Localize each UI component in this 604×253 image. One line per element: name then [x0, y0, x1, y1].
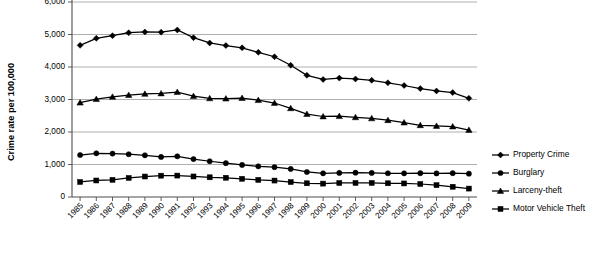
data-point-marker — [207, 159, 212, 164]
legend-label: Motor Vehicle Theft — [513, 203, 586, 213]
series-line — [80, 153, 469, 173]
data-point-marker — [78, 179, 83, 184]
legend-label: Larceny-theft — [513, 185, 563, 195]
data-point-marker — [94, 151, 99, 156]
x-axis-tick-label: 1994 — [212, 201, 232, 221]
x-axis-tick-label: 2005 — [390, 201, 410, 221]
data-point-marker — [142, 174, 147, 179]
data-point-marker — [272, 54, 278, 60]
legend-label: Burglary — [513, 167, 545, 177]
x-axis-tick-label: 1993 — [195, 201, 215, 221]
data-point-marker — [288, 166, 293, 171]
data-point-marker — [498, 207, 503, 212]
y-axis-tick-label: 5,000 — [45, 30, 66, 39]
series-motor-vehicle-theft — [78, 173, 472, 191]
data-point-marker — [417, 86, 423, 92]
x-axis-tick-label: 1992 — [179, 201, 199, 221]
data-point-marker — [321, 181, 326, 186]
y-axis-tick-label: 4,000 — [45, 62, 66, 71]
data-point-marker — [272, 178, 277, 183]
data-point-marker — [256, 164, 261, 169]
x-axis-tick-label: 2000 — [309, 201, 329, 221]
x-axis-tick-label: 2003 — [357, 201, 377, 221]
data-point-marker — [418, 171, 423, 176]
series-line — [80, 30, 469, 98]
data-point-marker — [321, 171, 326, 176]
data-point-marker — [126, 152, 131, 157]
x-axis-tick-label: 1998 — [276, 201, 296, 221]
x-axis-tick-label: 1988 — [114, 201, 134, 221]
data-point-marker — [385, 80, 391, 86]
series-property-crime — [77, 27, 472, 101]
chart-legend: Property CrimeBurglaryLarceny-theftMotor… — [492, 149, 586, 213]
data-point-marker — [240, 162, 245, 167]
x-axis-tick-label: 2004 — [374, 201, 394, 221]
x-axis-tick-label: 2007 — [422, 201, 442, 221]
legend-item-motor-vehicle-theft[interactable]: Motor Vehicle Theft — [492, 203, 586, 213]
data-point-marker — [466, 171, 471, 176]
x-axis-tick-label: 1996 — [244, 201, 264, 221]
data-point-marker — [159, 173, 164, 178]
data-point-marker — [434, 171, 439, 176]
data-point-marker — [110, 151, 115, 156]
data-point-marker — [77, 42, 83, 48]
data-point-marker — [255, 49, 261, 55]
data-point-marker — [385, 181, 390, 186]
legend-item-larceny-theft[interactable]: Larceny-theft — [492, 185, 563, 195]
x-axis-tick-label: 1990 — [147, 201, 167, 221]
legend-label: Property Crime — [513, 149, 570, 159]
data-point-marker — [207, 40, 213, 46]
x-axis-tick-label: 2006 — [406, 201, 426, 221]
x-axis-tick-label: 1989 — [131, 201, 151, 221]
x-axis-labels: 1985198619871988198919901991199219931994… — [66, 197, 474, 220]
data-point-marker — [369, 170, 374, 175]
data-point-marker — [369, 77, 375, 83]
data-point-marker — [110, 33, 116, 39]
data-point-marker — [126, 175, 131, 180]
data-point-marker — [434, 183, 439, 188]
data-point-marker — [353, 180, 358, 185]
data-point-marker — [174, 27, 180, 33]
x-axis-tick-label: 2002 — [341, 201, 361, 221]
y-axis-tick-label: 1,000 — [45, 160, 66, 169]
data-point-marker — [191, 174, 196, 179]
data-point-marker — [223, 161, 228, 166]
data-point-marker — [450, 171, 455, 176]
x-axis-tick-label: 2008 — [438, 201, 458, 221]
data-point-marker — [304, 169, 309, 174]
y-axis-tick-label: 3,000 — [45, 95, 66, 104]
data-point-marker — [223, 43, 229, 49]
y-axis-tick-label: 0 — [60, 192, 65, 201]
data-point-marker — [337, 170, 342, 175]
data-point-marker — [320, 76, 326, 82]
data-point-marker — [385, 171, 390, 176]
data-point-marker — [175, 173, 180, 178]
x-axis-tick-label: 1991 — [163, 201, 183, 221]
data-point-marker — [304, 72, 310, 78]
data-point-marker — [337, 180, 342, 185]
data-point-marker — [450, 90, 456, 96]
data-point-marker — [191, 35, 197, 41]
y-axis-tick-label: 2,000 — [45, 127, 66, 136]
data-point-marker — [434, 88, 440, 94]
data-point-marker — [466, 186, 471, 191]
x-axis-tick-label: 1997 — [260, 201, 280, 221]
data-point-marker — [353, 76, 359, 82]
data-point-marker — [110, 177, 115, 182]
data-point-marker — [336, 75, 342, 81]
x-axis-tick-label: 2001 — [325, 201, 345, 221]
data-point-marker — [288, 180, 293, 185]
series-burglary — [78, 151, 472, 177]
series-line — [80, 92, 469, 130]
x-axis-tick-label: 2009 — [455, 201, 475, 221]
legend-item-property-crime[interactable]: Property Crime — [492, 149, 570, 159]
data-point-marker — [142, 153, 147, 158]
data-point-marker — [207, 175, 212, 180]
series-larceny-theft — [77, 89, 472, 132]
y-axis-tick-label: 6,000 — [45, 0, 66, 6]
data-point-marker — [450, 184, 455, 189]
legend-item-burglary[interactable]: Burglary — [492, 167, 545, 177]
data-point-marker — [191, 156, 196, 161]
x-axis-tick-label: 1987 — [98, 201, 118, 221]
x-axis-tick-label: 1999 — [293, 201, 313, 221]
